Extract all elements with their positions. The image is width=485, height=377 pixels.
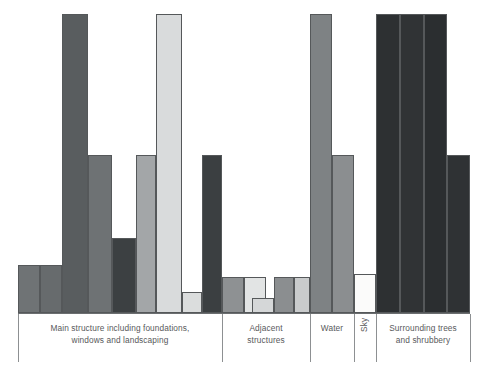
category-label-line1: Sky — [359, 318, 371, 332]
category-label-surrounding-trees: Surrounding treesand shrubbery — [376, 314, 470, 362]
plot-area — [0, 0, 485, 313]
bar-6 — [136, 155, 156, 313]
category-label-band: Main structure including foundations,win… — [0, 314, 485, 377]
bar-12 — [252, 298, 274, 313]
category-label-line1: Water — [321, 323, 343, 335]
category-label-line1: Adjacent — [247, 323, 284, 335]
bar-13 — [274, 277, 294, 313]
category-label-line1: Main structure including foundations, — [51, 323, 190, 335]
category-label-sky: Sky — [354, 314, 376, 362]
category-separator-end — [470, 314, 471, 362]
bar-chart: Main structure including foundations,win… — [0, 0, 485, 377]
bar-18 — [376, 14, 400, 313]
bar-14 — [294, 277, 310, 313]
category-label-water: Water — [310, 314, 354, 362]
bar-4 — [88, 155, 112, 313]
bar-8 — [182, 292, 202, 313]
bar-7 — [156, 14, 182, 313]
bar-2 — [40, 265, 62, 313]
bar-19 — [400, 14, 424, 313]
category-label-adjacent-structures: Adjacentstructures — [222, 314, 310, 362]
bar-16 — [332, 155, 354, 313]
bar-15 — [310, 14, 332, 313]
bar-21 — [447, 155, 470, 313]
category-label-line1: Surrounding trees — [389, 323, 457, 335]
bar-20 — [424, 14, 447, 313]
bar-1 — [18, 265, 40, 313]
bar-3 — [62, 14, 88, 313]
category-label-line2: structures — [247, 335, 284, 347]
category-label-line2: windows and landscaping — [51, 335, 190, 347]
bar-5 — [112, 238, 136, 313]
bar-17 — [354, 274, 376, 313]
bar-9 — [202, 155, 222, 313]
category-label-main-structure: Main structure including foundations,win… — [18, 314, 222, 362]
bar-10 — [222, 277, 244, 313]
category-label-line2: and shrubbery — [389, 335, 457, 347]
